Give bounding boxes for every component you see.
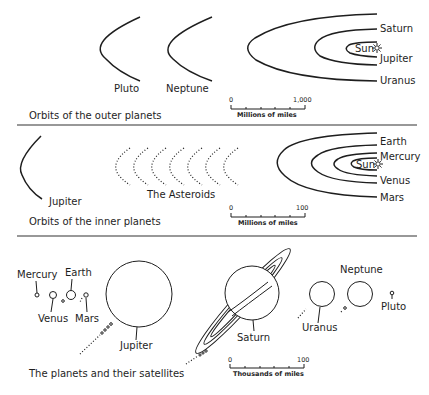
planets-caption: The planets and their satellites <box>28 368 184 379</box>
sun-icon <box>372 43 382 53</box>
svg-text:1,000: 1,000 <box>293 96 312 104</box>
moon <box>62 300 65 303</box>
jupiter-orbit-inner <box>21 136 42 199</box>
pluto-planet <box>390 291 394 295</box>
neptune-planet <box>348 282 373 307</box>
jupiter-label: Jupiter <box>379 53 413 64</box>
neptune-planet-label: Neptune <box>340 264 383 275</box>
asteroid-belt <box>116 148 238 185</box>
saturn-satellites <box>186 350 207 364</box>
svg-text:100: 100 <box>297 356 309 364</box>
solar-system-diagram: Pluto Neptune Uranus Saturn Jupiter Sun … <box>0 0 429 395</box>
jupiter-satellites <box>80 323 112 354</box>
svg-text:0: 0 <box>228 356 232 364</box>
svg-text:0: 0 <box>229 96 233 104</box>
pluto-label: Pluto <box>114 83 139 94</box>
jupiter-planet-label: Jupiter <box>119 340 153 351</box>
uranus-label: Uranus <box>380 75 415 86</box>
saturn-planet <box>225 266 279 320</box>
venus-planet <box>50 292 57 299</box>
jupiter-label-inner: Jupiter <box>48 196 82 207</box>
neptune-satellites <box>341 307 346 312</box>
uranus-planet <box>310 282 335 307</box>
svg-text:Millions of miles: Millions of miles <box>238 219 298 227</box>
outer-planets-section: Pluto Neptune Uranus Saturn Jupiter Sun … <box>29 14 415 121</box>
mercury-planet <box>35 293 39 297</box>
outer-scale-bar: 0 1,000 Millions of miles <box>229 96 312 119</box>
outer-caption: Orbits of the outer planets <box>29 110 162 121</box>
saturn-label: Saturn <box>380 23 413 34</box>
mars-label: Mars <box>380 192 404 203</box>
jupiter-planet <box>106 261 172 327</box>
mars-planet <box>84 293 88 297</box>
svg-text:0: 0 <box>229 204 233 212</box>
sun-icon <box>373 159 383 169</box>
earth-planet-label: Earth <box>65 267 92 278</box>
asteroids-label: The Asteroids <box>146 189 215 200</box>
inner-scale-bar: 0 100 Millions of miles <box>229 204 308 227</box>
planets-scale-bar: 0 100 Thousands of miles <box>228 356 309 378</box>
svg-text:100: 100 <box>296 204 308 212</box>
neptune-orbit <box>168 17 212 81</box>
mars-planet-label: Mars <box>75 313 99 324</box>
saturn-planet-label: Saturn <box>237 332 270 343</box>
inner-caption: Orbits of the inner planets <box>29 216 161 227</box>
uranus-planet-label: Uranus <box>302 322 337 333</box>
svg-text:Millions of miles: Millions of miles <box>237 111 297 119</box>
svg-text:Thousands of miles: Thousands of miles <box>233 370 304 378</box>
earth-planet <box>67 291 76 300</box>
sun-label-inner: Sun <box>356 159 375 170</box>
earth-label: Earth <box>380 136 407 147</box>
planets-section: Mercury Earth Venus Mars Jupiter <box>17 243 406 379</box>
inner-planets-section: Jupiter The Asteroids Mars Earth Venus M… <box>21 133 421 227</box>
venus-label: Venus <box>380 175 410 186</box>
pluto-planet-label: Pluto <box>381 301 406 312</box>
mercury-label: Mercury <box>380 151 421 162</box>
uranus-satellites <box>298 309 306 318</box>
sun-label: Sun <box>355 43 374 54</box>
pluto-orbit <box>100 17 140 81</box>
venus-planet-label: Venus <box>38 313 68 324</box>
neptune-label: Neptune <box>166 83 209 94</box>
mercury-planet-label: Mercury <box>17 269 58 280</box>
